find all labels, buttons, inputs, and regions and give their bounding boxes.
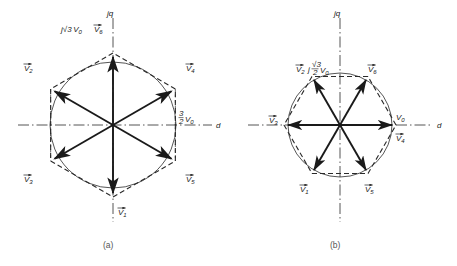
axis-d-label-a: d [216,121,221,130]
space-vector-figure: jq d j√3V0 3 2 V0 V6 V2 [0,0,457,266]
vlabel-V2-sub-a: 2 [28,68,33,74]
vlabel-V1-sub-a: 1 [123,212,126,218]
figure-background [0,0,457,266]
caption-a: (a) [103,240,114,250]
caption-b: (b) [330,240,341,250]
mag-q-prefix-b: j [307,65,310,74]
axis-jq-label-a: jq [106,9,114,18]
axis-jq-label-b: jq [333,9,341,18]
vlabel-V2-sub-b: 2 [300,69,305,75]
mag-d-denominator-a: 2 [178,117,184,126]
vlabel-V1-sub-b: 1 [305,189,308,195]
mag-q-prefix-a: j√3 [60,25,72,34]
axis-d-label-b: d [437,121,442,130]
mag-q-denominator-b: 2 [312,68,318,77]
